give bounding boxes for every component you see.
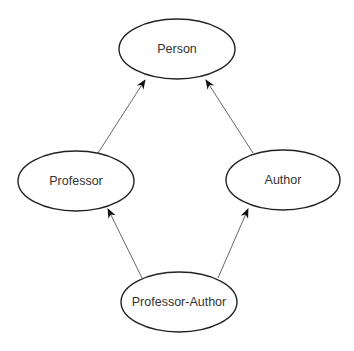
node-person-label: Person bbox=[157, 42, 197, 56]
inheritance-diagram: Person Professor Author Professor-Author bbox=[0, 0, 354, 351]
node-professor-label: Professor bbox=[49, 174, 103, 188]
node-professor-author: Professor-Author bbox=[121, 272, 237, 332]
node-professor-author-label: Professor-Author bbox=[132, 295, 226, 309]
node-author: Author bbox=[226, 150, 340, 210]
node-professor: Professor bbox=[18, 151, 134, 211]
node-author-label: Author bbox=[265, 173, 302, 187]
edge-professor-to-person bbox=[98, 80, 145, 153]
node-person: Person bbox=[119, 19, 235, 79]
edge-professor-author-to-professor bbox=[108, 209, 142, 278]
edge-author-to-person bbox=[206, 80, 253, 153]
edge-professor-author-to-author bbox=[218, 209, 248, 278]
